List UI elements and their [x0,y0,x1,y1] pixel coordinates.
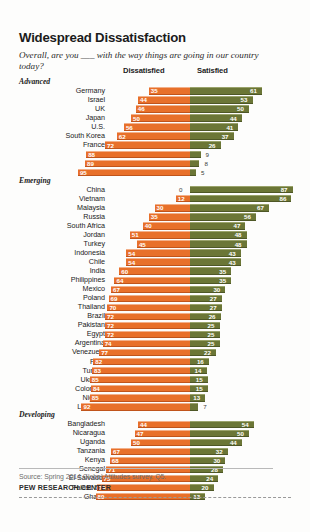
bar-dissatisfied [105,322,190,329]
value-label-dissatisfied: 50 [133,439,140,446]
value-label-satisfied: 41 [226,124,291,131]
value-label-satisfied: 50 [237,430,291,437]
value-label-satisfied: 50 [237,105,291,112]
chart-page: Widespread Dissatisfaction Overall, are … [0,0,310,532]
chart-row: Poland6927 [19,294,293,303]
chart-row: Thailand7027 [19,303,293,312]
bar-track: 8513 [19,394,293,401]
bar-dissatisfied [107,304,190,311]
chart-row: Chile5443 [19,258,293,267]
bar-chart: AdvancedGermany3561Israel4453UK4650Japan… [19,78,293,501]
bar-dissatisfied [90,394,190,401]
chart-row: Tanzania6732 [19,447,293,456]
value-label-dissatisfied: 64 [116,277,123,284]
value-label-dissatisfied: 92 [83,403,90,410]
bar-track: 6830 [19,457,293,464]
chart-row: U.S.5641 [19,123,293,132]
value-label-satisfied: 22 [204,349,291,356]
legend-label-satisfied: Satisfied [197,66,228,75]
header-block: Widespread Dissatisfaction Overall, are … [19,0,293,71]
value-label-satisfied: 15 [196,376,291,383]
bar-track: 889 [19,151,293,158]
bar-dissatisfied [85,160,190,167]
chart-row: Ukraine8515 [19,375,293,384]
bar-track: 6237 [19,132,293,139]
bar-track: 927 [19,403,293,410]
bar-track: 8314 [19,367,293,374]
source-note: Source: Spring 2014 Global Attitudes sur… [19,473,166,480]
bar-track: 898 [19,160,293,167]
value-label-dissatisfied: 84 [93,385,100,392]
value-label-dissatisfied: 67 [113,448,120,455]
chart-row: Malaysia3067 [19,203,293,212]
bar-track: 8216 [19,358,293,365]
chart-row: Spain898 [19,159,293,168]
bar-track: 7226 [19,141,293,148]
value-label-satisfied: 7 [203,403,206,410]
chart-row: Pakistan7225 [19,321,293,330]
value-label-dissatisfied: 68 [112,457,119,464]
value-label-satisfied: 54 [242,421,291,428]
bar-dissatisfied [109,295,190,302]
value-label-satisfied: 27 [210,295,291,302]
group-header-emerging: Emerging [19,177,293,185]
chart-row: Colombia8415 [19,384,293,393]
bar-dissatisfied [81,403,190,410]
bar-dissatisfied [103,340,190,347]
bar-dissatisfied [86,151,190,158]
bar-track: 1286 [19,195,293,202]
value-label-dissatisfied: 88 [88,151,95,158]
chart-row: UK4650 [19,104,293,113]
chart-row: Mexico6730 [19,285,293,294]
bar-track: 7425 [19,340,293,347]
value-label-satisfied: 20 [202,484,291,491]
bar-satisfied [190,160,199,167]
value-label-satisfied: 25 [208,340,292,347]
bar-track: 7027 [19,304,293,311]
bar-track: 6730 [19,286,293,293]
bar-track: 4047 [19,222,293,229]
bottom-divider [19,497,291,498]
value-label-dissatisfied: 72 [107,322,114,329]
value-label-satisfied: 53 [241,96,291,103]
chart-row: China087 [19,185,293,194]
bar-dissatisfied [110,457,190,464]
value-label-dissatisfied: 70 [109,304,116,311]
value-label-satisfied: 32 [216,448,291,455]
bar-track: 4453 [19,96,293,103]
chart-row: Italy889 [19,150,293,159]
bar-dissatisfied [117,132,190,139]
value-label-satisfied: 44 [230,115,291,122]
chart-row: Lebanon927 [19,402,293,411]
value-label-satisfied: 30 [213,286,291,293]
bar-satisfied [190,186,293,193]
chart-row: Egypt7225 [19,330,293,339]
bar-track: 7225 [19,331,293,338]
value-label-satisfied: 61 [250,87,291,94]
value-label-satisfied: 37 [222,133,291,140]
bar-satisfied [190,169,196,176]
value-label-dissatisfied: 74 [105,340,112,347]
bar-dissatisfied [105,141,190,148]
value-label-dissatisfied: 12 [178,195,185,202]
bar-track: 4454 [19,421,293,428]
chart-row: Nigeria8513 [19,393,293,402]
bar-dissatisfied [114,277,190,284]
value-label-dissatisfied: 95 [80,169,87,176]
chart-row: Nicaragua4750 [19,429,293,438]
chart-row: South Korea6237 [19,132,293,141]
value-label-dissatisfied: 69 [111,295,118,302]
value-label-dissatisfied: 54 [128,259,135,266]
legend-label-dissatisfied: Dissatisfied [123,66,164,75]
value-label-dissatisfied: 47 [137,430,144,437]
bar-track: 6732 [19,448,293,455]
value-label-dissatisfied: 54 [128,250,135,257]
organization-name: PEW RESEARCH CENTER [19,484,111,492]
chart-row: Jordan5148 [19,230,293,239]
value-label-satisfied: 56 [244,213,291,220]
chart-row: Japan5044 [19,114,293,123]
value-label-satisfied: 25 [208,322,292,329]
bar-track: 4750 [19,430,293,437]
value-label-satisfied: 9 [206,151,209,158]
value-label-dissatisfied: 85 [92,376,99,383]
